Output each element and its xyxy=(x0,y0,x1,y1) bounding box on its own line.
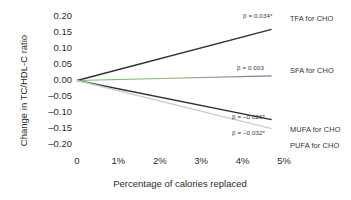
x-tick-label: 5% xyxy=(269,155,299,166)
annotation-beta-sfa: β = 0.003 xyxy=(237,64,264,71)
x-tick-label: 1% xyxy=(103,155,133,166)
series-label-mufa: MUFA for CHO xyxy=(290,125,340,134)
series-label-pufa: PUFA for CHO xyxy=(290,141,339,150)
x-tick-label: 0 xyxy=(62,155,92,166)
series-label-sfa: SFA for CHO xyxy=(290,66,334,75)
annotation-beta-tfa: β = 0.034* xyxy=(243,12,273,19)
series-label-tfa: TFA for CHO xyxy=(290,14,333,23)
x-tick-label: 3% xyxy=(186,155,216,166)
x-axis-tick-labels: 01%2%3%4%5% xyxy=(0,155,351,171)
chart-container: Change in TC/HDL-C ratio 0.200.150.100.0… xyxy=(0,0,351,200)
series-line-tfa xyxy=(77,29,272,80)
series-line-sfa xyxy=(77,76,272,81)
x-axis-title: Percentage of calories replaced xyxy=(60,178,300,189)
series-line-pufa xyxy=(77,81,272,129)
annotation-beta-pufa: β = –0.032* xyxy=(232,129,265,136)
x-tick-label: 4% xyxy=(228,155,258,166)
x-tick-label: 2% xyxy=(145,155,175,166)
annotation-beta-mufa: β = –0.026* xyxy=(232,113,265,120)
